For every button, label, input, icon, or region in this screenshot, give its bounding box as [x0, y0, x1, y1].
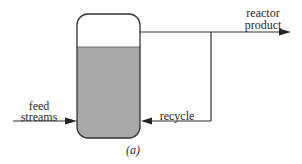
product-label-line2: product — [233, 19, 293, 31]
feed-label-line2: streams — [14, 111, 64, 123]
figure-caption: (a) — [115, 144, 151, 156]
feed-arrow-icon — [65, 118, 77, 125]
recycle-label: recycle — [152, 110, 202, 122]
reactor-recycle-diagram: reactor product feed streams recycle (a) — [0, 0, 302, 164]
recycle-arrow-icon — [141, 118, 152, 125]
vessel-liquid — [77, 47, 140, 139]
